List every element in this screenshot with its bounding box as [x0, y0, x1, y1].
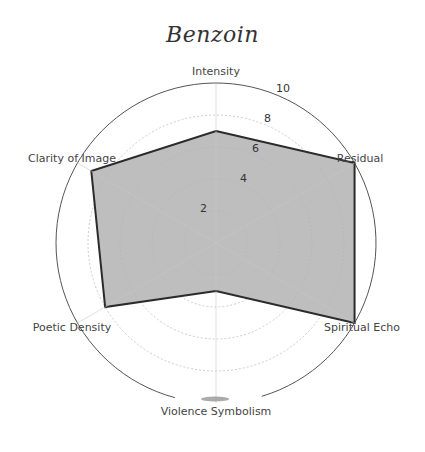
axis-label-poetic-density: Poetic Density [33, 321, 112, 334]
radar-chart: 2 4 6 8 10 Intensity Residual Spiritual … [0, 0, 425, 452]
axis-label-spiritual-echo: Spiritual Echo [324, 321, 400, 334]
bottom-blur-artifact [201, 397, 229, 402]
axis-label-intensity: Intensity [192, 65, 240, 78]
axis-label-residual: Residual [337, 152, 383, 165]
tick-label-6: 6 [252, 142, 259, 155]
tick-label-10: 10 [276, 82, 290, 95]
axis-label-clarity-of-image: Clarity of Image [28, 152, 116, 165]
data-polygon [91, 131, 354, 323]
tick-label-4: 4 [240, 172, 247, 185]
axis-label-violence-symbolism: Violence Symbolism [161, 405, 272, 418]
tick-label-8: 8 [264, 112, 271, 125]
tick-label-2: 2 [200, 202, 207, 215]
